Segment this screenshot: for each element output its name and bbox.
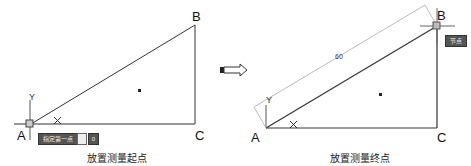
right-arrow-icon: [220, 64, 247, 76]
vertex-a-label-right: A: [251, 131, 260, 144]
tooltip-first-point: 指定第一点: [38, 133, 78, 145]
vertex-a-label-left: A: [17, 129, 26, 142]
centroid-marker-left: [138, 89, 141, 92]
y-axis-label-left: Y: [29, 93, 35, 102]
left-triangle: [14, 25, 195, 140]
x-axis-marker-left: [54, 117, 61, 124]
x-axis-marker-right: [290, 121, 297, 128]
tooltip-node: 节点: [445, 35, 467, 47]
caption-left: 放置测量起点: [87, 150, 147, 165]
vertex-b-label-right: B: [437, 9, 446, 22]
y-axis-label-right: Y: [266, 96, 272, 105]
vertex-b-label-left: B: [192, 10, 201, 23]
right-triangle: [266, 26, 437, 128]
caption-right: 放置测量终点: [330, 150, 390, 165]
dimension-value: 60: [335, 53, 343, 60]
coordinate-input[interactable]: [77, 133, 87, 145]
centroid-marker-right: [379, 93, 382, 96]
vertex-c-label-left: C: [195, 129, 204, 142]
coordinate-input-2[interactable]: 0: [88, 133, 99, 145]
vertex-c-label-right: C: [437, 131, 446, 144]
dimension-line: [254, 5, 437, 128]
